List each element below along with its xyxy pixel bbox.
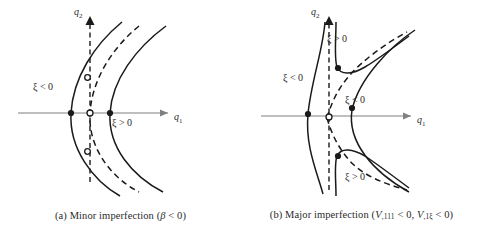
- caption-b-relation-2: < 0: [433, 209, 450, 220]
- annotation-xi-positive-upper: ξ > 0: [327, 33, 347, 45]
- x-axis-group: q1: [18, 110, 183, 125]
- annotation-xi-positive-lower: ξ > 0: [345, 171, 365, 183]
- caption-b-relation-1: < 0,: [395, 209, 415, 220]
- marker-solid-dot-right-axis: [107, 110, 113, 116]
- caption-b-paren-close: ): [450, 209, 454, 220]
- marker-solid-dot-left-axis: [68, 110, 74, 116]
- marker-open-dot-lower-crossing: [85, 149, 91, 155]
- curve-middle-dashed: [90, 26, 139, 192]
- marker-open-dot-origin: [326, 114, 332, 120]
- caption-b-sub-2: ,1ξ: [423, 212, 432, 221]
- curve-right-solid: [110, 26, 166, 192]
- marker-solid-dot-right-axis: [349, 105, 355, 111]
- annotation-xi-negative-right: ξ < 0: [345, 94, 365, 106]
- x-axis-group: q1: [261, 113, 426, 128]
- caption-b-sub-1: ,111: [382, 212, 395, 221]
- figure-container: q1 q2 ξ < 0 ξ > 0 (a: [0, 0, 483, 225]
- marker-solid-dot-left-axis: [305, 111, 311, 117]
- y-axis-arrowhead: [325, 16, 334, 25]
- caption-b-prefix: (b): [270, 209, 283, 220]
- y-axis-arrowhead: [86, 16, 95, 25]
- x-axis-arrowhead: [403, 113, 411, 120]
- marker-open-dot-origin: [87, 110, 93, 116]
- plot-major-imperfection: q1 q2: [241, 0, 482, 200]
- marker-solid-dot-lower-hook: [335, 153, 341, 159]
- y-axis-label: q2: [74, 6, 83, 20]
- panel-minor-imperfection: q1 q2 ξ < 0 ξ > 0 (a: [0, 0, 241, 225]
- caption-a-paren-close: ): [182, 210, 186, 221]
- caption-a-text: Minor imperfection: [70, 210, 154, 221]
- caption-a-prefix: (a): [55, 210, 67, 221]
- curve-upper-hook-solid: [335, 22, 409, 73]
- marker-solid-dot-upper-hook: [335, 65, 341, 71]
- annotation-xi-negative-left: ξ < 0: [33, 81, 53, 93]
- caption-a-relation: < 0: [166, 210, 183, 221]
- panel-major-imperfection: q1 q2: [241, 0, 482, 225]
- x-axis-label: q1: [174, 111, 183, 125]
- y-axis-group: q2: [74, 6, 95, 182]
- caption-panel-b: (b) Major imperfection (V,111 < 0, V,1ξ …: [241, 209, 482, 221]
- curve-left-solid: [71, 22, 122, 196]
- caption-b-text: Major imperfection: [285, 209, 369, 220]
- curve-left-solid-branch: [308, 22, 325, 194]
- plot-minor-imperfection: q1 q2 ξ < 0 ξ > 0: [0, 0, 241, 200]
- x-axis-label: q1: [417, 114, 426, 128]
- annotation-xi-negative-left: ξ < 0: [283, 72, 303, 84]
- x-axis-arrowhead: [160, 110, 168, 117]
- marker-open-dot-upper-crossing: [85, 75, 91, 81]
- y-axis-label: q2: [311, 6, 320, 20]
- caption-panel-a: (a) Minor imperfection (β < 0): [0, 210, 241, 221]
- annotation-xi-positive-right: ξ > 0: [112, 117, 132, 129]
